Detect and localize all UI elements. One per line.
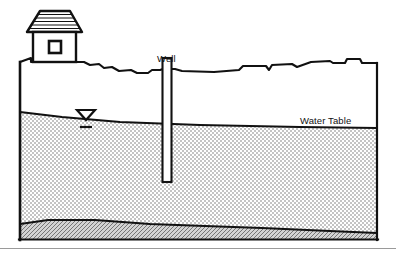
water-table-label: Water Table	[300, 115, 351, 126]
cross-section-drawing: Well Water Table	[0, 0, 396, 253]
house	[27, 11, 82, 62]
well-label: Well	[157, 53, 176, 64]
well-shaft[interactable]	[163, 58, 172, 182]
house-window	[49, 41, 61, 53]
groundwater-cross-section-figure: Well Water Table	[0, 0, 396, 253]
